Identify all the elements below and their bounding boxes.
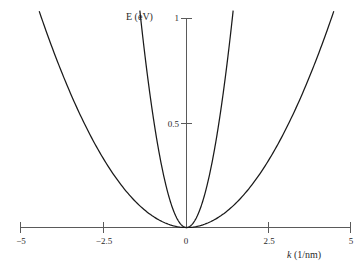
figure-root: E (eV) 1 0.5 −5 −2.5 0 2.5 5 k (1/nm) xyxy=(0,0,360,268)
x-tick-label-2.5: 2.5 xyxy=(263,237,274,246)
y-axis-title: E (eV) xyxy=(126,12,153,22)
y-tick-label-1: 1 xyxy=(175,14,180,23)
y-tick-label-0.5: 0.5 xyxy=(168,120,179,129)
x-tick-label--5: −5 xyxy=(16,237,26,246)
x-tick-label--2.5: −2.5 xyxy=(96,237,112,246)
x-tick-label-origin: 0 xyxy=(184,237,189,246)
x-axis-title-units: (1/nm) xyxy=(294,249,321,260)
plot-canvas xyxy=(0,0,360,268)
x-tick-label-5: 5 xyxy=(349,237,354,246)
x-axis-title: k (1/nm) xyxy=(287,250,321,260)
